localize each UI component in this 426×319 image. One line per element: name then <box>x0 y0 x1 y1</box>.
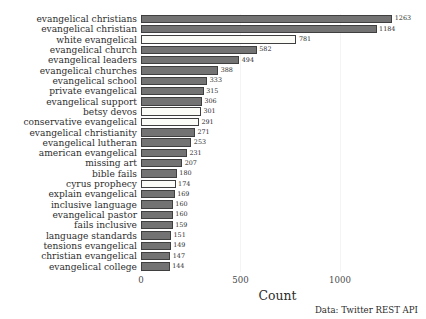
bar <box>141 118 199 126</box>
category-label: private evangelical <box>1 86 137 97</box>
category-label: evangelical christianity <box>1 128 137 139</box>
bar-row: 333 <box>141 76 414 87</box>
category-label: evangelical support <box>1 97 137 108</box>
bar <box>141 97 202 105</box>
bar <box>141 149 187 157</box>
bar-row: 582 <box>141 45 414 56</box>
bar-row: 253 <box>141 138 414 149</box>
bar-row: 781 <box>141 35 414 46</box>
bar <box>141 128 195 136</box>
bar <box>141 56 239 64</box>
category-label: evangelical college <box>1 262 137 273</box>
bar-value-label: 582 <box>259 44 271 55</box>
bar-value-label: 144 <box>172 261 184 272</box>
category-label: tensions evangelical <box>1 241 137 252</box>
bar-row: 144 <box>141 262 414 273</box>
bar <box>141 180 176 188</box>
category-label: evangelical churches <box>1 66 137 77</box>
bar <box>141 66 218 74</box>
category-label: evangelical pastor <box>1 210 137 221</box>
category-axis: evangelical christiansevangelical christ… <box>0 14 137 272</box>
bar <box>141 169 177 177</box>
category-label: american evangelical <box>1 148 137 159</box>
x-tick-label: 500 <box>232 275 248 285</box>
x-tick-label: 0 <box>138 275 143 285</box>
category-label: evangelical lutheran <box>1 138 137 149</box>
category-label: evangelical school <box>1 76 137 87</box>
bar-row: 494 <box>141 55 414 66</box>
bar-row: 291 <box>141 117 414 128</box>
category-label: cyrus prophecy <box>1 179 137 190</box>
bar <box>141 107 201 115</box>
bar-value-label: 388 <box>221 65 233 76</box>
bar-value-label: 781 <box>299 34 311 45</box>
bar-row: 231 <box>141 148 414 159</box>
bar <box>141 15 392 23</box>
bar-row: 306 <box>141 97 414 108</box>
category-label: missing art <box>1 158 137 169</box>
bar <box>141 87 204 95</box>
category-label: evangelical christians <box>1 14 137 25</box>
category-label: white evangelical <box>1 35 137 46</box>
bar-value-label: 1263 <box>395 13 411 24</box>
bar-value-label: 1184 <box>379 24 395 35</box>
bar <box>141 262 170 270</box>
bar <box>141 221 173 229</box>
category-label: fails inclusive <box>1 220 137 231</box>
bar <box>141 242 171 250</box>
bar-row: 271 <box>141 128 414 139</box>
bar <box>141 77 207 85</box>
category-label: language standards <box>1 231 137 242</box>
x-axis-label: Count <box>141 288 414 303</box>
plot-area: 1263118478158249438833331530630129127125… <box>141 14 414 272</box>
bar <box>141 231 171 239</box>
bar <box>141 138 191 146</box>
category-label: evangelical leaders <box>1 55 137 66</box>
bar-row: 1184 <box>141 24 414 35</box>
bar <box>141 159 182 167</box>
bar-row: 1263 <box>141 14 414 25</box>
category-label: christian evangelical <box>1 251 137 262</box>
bar <box>141 252 170 260</box>
category-label: betsy devos <box>1 107 137 118</box>
bar <box>141 35 296 43</box>
category-label: evangelical church <box>1 45 137 56</box>
category-label: bible fails <box>1 169 137 180</box>
bar-chart: evangelical christiansevangelical christ… <box>0 0 426 319</box>
x-tick-label: 1000 <box>329 275 351 285</box>
bar <box>141 190 175 198</box>
bar-value-label: 494 <box>242 55 254 66</box>
source-caption: Data: Twitter REST API <box>315 305 418 315</box>
bar <box>141 46 257 54</box>
bar-row: 315 <box>141 86 414 97</box>
bar <box>141 211 173 219</box>
bar <box>141 200 173 208</box>
category-label: evangelical christian <box>1 24 137 35</box>
category-label: explain evangelical <box>1 189 137 200</box>
bar-row: 388 <box>141 66 414 77</box>
category-label: conservative evangelical <box>1 117 137 128</box>
category-label: inclusive language <box>1 200 137 211</box>
bar-row: 301 <box>141 107 414 118</box>
bar <box>141 25 377 33</box>
